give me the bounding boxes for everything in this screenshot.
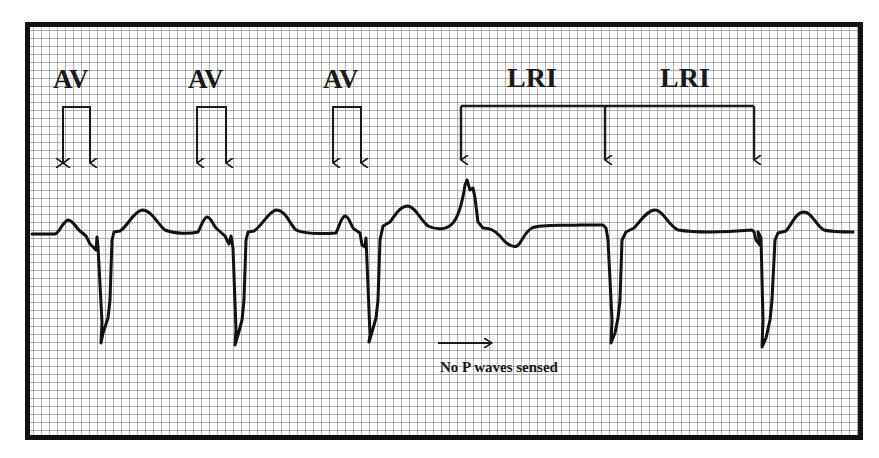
lri-bracket [461, 106, 754, 160]
no-p-waves-note: No P waves sensed [440, 360, 558, 375]
lri-label-2: LRI [660, 64, 710, 92]
av-bracket-3 [333, 107, 361, 163]
av-bracket-1 [63, 107, 90, 163]
av-bracket-2 [197, 107, 226, 163]
av-label-2: AV [188, 66, 224, 93]
ecg-overlay [0, 0, 879, 458]
av-label-1: AV [53, 66, 89, 93]
lri-label-1: LRI [507, 64, 557, 92]
av-label-3: AV [323, 66, 359, 93]
ecg-figure: AV AV AV LRI LRI No P waves sensed [0, 0, 879, 458]
ecg-trace [32, 180, 853, 347]
